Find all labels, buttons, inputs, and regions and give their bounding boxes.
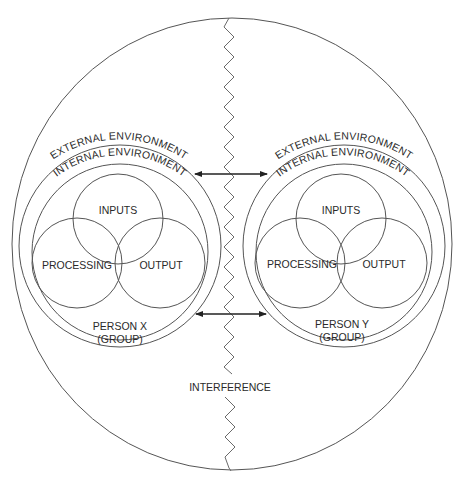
interference-zigzag-bottom <box>225 397 235 471</box>
person-x-inputs-label: INPUTS <box>99 204 138 216</box>
person-y-inputs-label: INPUTS <box>322 204 361 216</box>
person-y-group-label: (GROUP) <box>319 331 365 343</box>
communication-model-diagram: EXTERNAL ENVIRONMENT INTERNAL ENVIRONMEN… <box>0 0 465 483</box>
interference-label: INTERFERENCE <box>189 381 271 393</box>
person-x-name-label: PERSON X <box>93 320 147 332</box>
person-y-external-circle <box>243 145 445 347</box>
person-x-output-label: OUTPUT <box>139 259 183 271</box>
person-x-internal-circle <box>32 164 208 340</box>
person-x-processing-label: PROCESSING <box>42 259 112 271</box>
person-y-processing-label: PROCESSING <box>267 258 337 270</box>
person-y-group: EXTERNAL ENVIRONMENT INTERNAL ENVIRONMEN… <box>243 129 445 347</box>
person-y-name-label: PERSON Y <box>315 318 369 330</box>
interference-zigzag-top <box>224 18 234 374</box>
outer-boundary-ellipse <box>12 18 452 470</box>
person-x-group-label: (GROUP) <box>97 333 143 345</box>
person-x-external-circle <box>19 145 221 347</box>
person-y-output-label: OUTPUT <box>362 258 406 270</box>
person-x-group: EXTERNAL ENVIRONMENT INTERNAL ENVIRONMEN… <box>19 129 221 347</box>
